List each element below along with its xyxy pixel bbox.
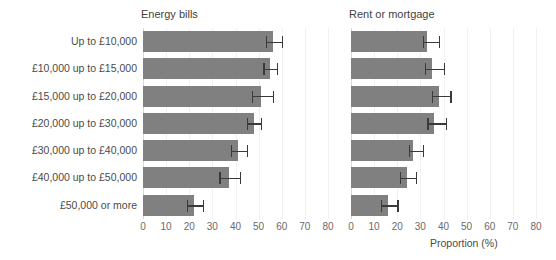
bar (351, 86, 439, 107)
error-bar (432, 96, 451, 97)
bar-row (143, 28, 328, 55)
error-bar-cap (266, 36, 267, 48)
x-tick-label: 60 (276, 221, 287, 232)
bar (143, 167, 229, 188)
x-tick-labels-rent-or-mortgage: 01020304050607080 (351, 221, 536, 235)
category-label: £30,000 up to £40,000 (32, 137, 137, 164)
category-label: £50,000 or more (60, 192, 137, 219)
category-label: £10,000 up to £15,000 (32, 55, 137, 82)
plot-area-energy-bills (143, 28, 328, 219)
error-bar (266, 42, 282, 43)
gridline (328, 28, 329, 219)
error-bar (400, 178, 416, 179)
error-bar-cap (432, 91, 433, 103)
error-bar-cap (273, 91, 274, 103)
x-tick-label: 0 (140, 221, 146, 232)
x-tick-label: 30 (415, 221, 426, 232)
bar-row (143, 110, 328, 137)
error-bar-cap (277, 63, 278, 75)
error-bar-cap (397, 200, 398, 212)
bar (143, 58, 270, 79)
error-bar-cap (252, 91, 253, 103)
chart-figure: Energy bills Rent or mortgage Up to £10,… (0, 0, 556, 260)
bar-row (351, 192, 536, 219)
bar (143, 113, 254, 134)
error-bar (381, 205, 397, 206)
x-tick-label: 20 (184, 221, 195, 232)
error-bar-cap (247, 145, 248, 157)
x-tick-label: 30 (207, 221, 218, 232)
error-bar (187, 205, 203, 206)
bar-row (351, 83, 536, 110)
error-bar-cap (282, 36, 283, 48)
error-bar-cap (247, 118, 248, 130)
category-label: £40,000 up to £50,000 (32, 164, 137, 191)
bar (351, 31, 427, 52)
error-bar-cap (263, 63, 264, 75)
category-label: Up to £10,000 (71, 28, 137, 55)
error-bar-cap (409, 145, 410, 157)
bar-row (351, 164, 536, 191)
error-bar-cap (423, 36, 424, 48)
error-bar (247, 123, 261, 124)
error-bar-cap (240, 172, 241, 184)
error-bar-cap (450, 91, 451, 103)
error-bar (423, 42, 439, 43)
bar (351, 113, 434, 134)
bar (351, 58, 432, 79)
bar (143, 86, 261, 107)
error-bar-cap (219, 172, 220, 184)
bar-row (143, 137, 328, 164)
x-tick-label: 40 (438, 221, 449, 232)
gridline (536, 28, 537, 219)
x-tick-labels-energy-bills: 01020304050607080 (143, 221, 328, 235)
x-tick-label: 60 (484, 221, 495, 232)
error-bar (219, 178, 240, 179)
x-tick-label: 70 (299, 221, 310, 232)
x-tick-label: 50 (253, 221, 264, 232)
error-bar-cap (423, 145, 424, 157)
panel-title-rent-or-mortgage: Rent or mortgage (349, 8, 435, 20)
error-bar-cap (425, 63, 426, 75)
bar-row (143, 164, 328, 191)
error-bar-cap (439, 36, 440, 48)
bar-row (351, 137, 536, 164)
category-label: £20,000 up to £30,000 (32, 110, 137, 137)
x-tick-label: 0 (348, 221, 354, 232)
error-bar-cap (231, 145, 232, 157)
error-bar (263, 69, 277, 70)
x-tick-label: 50 (461, 221, 472, 232)
bar (351, 140, 413, 161)
error-bar (425, 69, 444, 70)
x-tick-label: 10 (161, 221, 172, 232)
bar (351, 167, 407, 188)
x-tick-label: 80 (530, 221, 541, 232)
error-bar-cap (187, 200, 188, 212)
bar (143, 31, 273, 52)
error-bar (252, 96, 273, 97)
error-bar-cap (203, 200, 204, 212)
category-label: £15,000 up to £20,000 (32, 83, 137, 110)
x-tick-label: 80 (322, 221, 333, 232)
x-tick-label: 10 (369, 221, 380, 232)
bar-row (351, 110, 536, 137)
error-bar-cap (446, 118, 447, 130)
plot-area-rent-or-mortgage (351, 28, 536, 219)
category-axis-labels: Up to £10,000£10,000 up to £15,000£15,00… (0, 28, 143, 219)
error-bar-cap (261, 118, 262, 130)
error-bar-cap (427, 118, 428, 130)
x-tick-label: 70 (507, 221, 518, 232)
bar-row (351, 55, 536, 82)
panel-title-energy-bills: Energy bills (141, 8, 198, 20)
x-tick-label: 40 (230, 221, 241, 232)
x-tick-label: 20 (392, 221, 403, 232)
error-bar (409, 151, 423, 152)
error-bar-cap (416, 172, 417, 184)
bar-row (351, 28, 536, 55)
error-bar-cap (444, 63, 445, 75)
x-axis-label: Proportion (%) (430, 237, 498, 249)
error-bar-cap (400, 172, 401, 184)
error-bar (231, 151, 247, 152)
error-bar-cap (381, 200, 382, 212)
bar-row (143, 192, 328, 219)
